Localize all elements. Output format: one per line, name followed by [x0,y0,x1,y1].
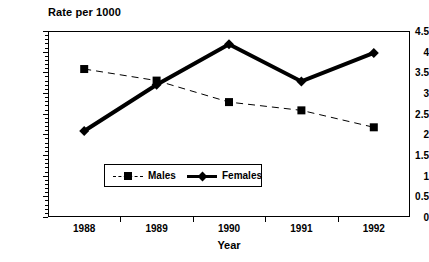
data-point-males [297,106,305,114]
legend-swatch-dashed-square-icon [113,170,143,182]
legend-entry-males: Males [113,165,176,186]
legend-entry-females: Females [187,165,262,186]
legend-label-males: Males [148,170,176,181]
data-point-males [370,123,378,131]
series-layer [0,0,429,262]
x-axis-title: Year [48,239,410,251]
data-point-males [225,98,233,106]
data-point-males [80,65,88,73]
legend-swatch-solid-diamond-icon [187,170,217,182]
series-line-females [84,44,374,131]
legend-label-females: Females [222,170,262,181]
line-chart: Rate per 1000 00.511.522.533.544.5 19881… [0,0,429,262]
chart-legend: Males Females [104,164,262,187]
